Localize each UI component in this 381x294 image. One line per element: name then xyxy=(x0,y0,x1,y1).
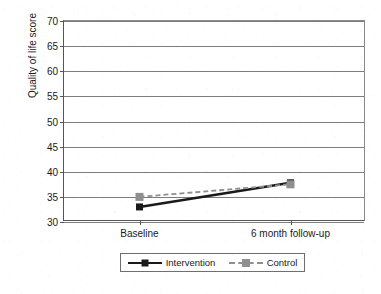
legend-item-intervention: Intervention xyxy=(128,257,216,268)
y-tick-label: 65 xyxy=(47,41,58,52)
gridline xyxy=(64,222,364,223)
y-tick-label: 35 xyxy=(47,191,58,202)
legend-marker-intervention xyxy=(141,259,148,266)
x-tick-label: Baseline xyxy=(120,228,158,239)
y-tick-label: 70 xyxy=(47,16,58,27)
chart-legend: Intervention Control xyxy=(120,253,305,272)
x-tick-label: 6 month follow-up xyxy=(251,228,330,239)
y-tick-label: 50 xyxy=(47,116,58,127)
y-tick-label: 55 xyxy=(47,91,58,102)
y-tick-label: 45 xyxy=(47,141,58,152)
series-layer xyxy=(64,21,366,222)
legend-label-intervention: Intervention xyxy=(166,257,216,268)
quality-of-life-line-chart: Quality of life score 303540455055606570… xyxy=(0,0,381,294)
legend-swatch-control xyxy=(229,257,263,268)
y-tick-mark xyxy=(60,222,64,223)
legend-label-control: Control xyxy=(267,257,298,268)
data-point-marker-control xyxy=(136,193,144,201)
y-tick-label: 30 xyxy=(47,217,58,228)
legend-item-control: Control xyxy=(229,257,298,268)
legend-swatch-intervention xyxy=(128,257,162,268)
legend-marker-control xyxy=(242,259,250,267)
y-tick-label: 60 xyxy=(47,66,58,77)
data-point-marker-intervention xyxy=(136,203,143,210)
y-axis-title: Quality of life score xyxy=(27,0,38,136)
plot-area: 303540455055606570 Baseline6 month follo… xyxy=(63,20,365,221)
data-point-marker-control xyxy=(287,180,295,188)
y-tick-label: 40 xyxy=(47,166,58,177)
